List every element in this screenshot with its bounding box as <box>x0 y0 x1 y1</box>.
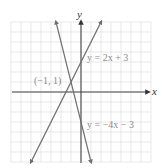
line1-label: y = 2x + 3 <box>87 52 128 63</box>
intersection-label: (−1, 1) <box>34 75 61 87</box>
x-axis-label: x <box>151 85 157 97</box>
y-axis-label: y <box>76 8 82 20</box>
coordinate-graph: x y y = 2x + 3 y = −4x − 3 (−1, 1) <box>0 0 162 168</box>
line2-label: y = −4x − 3 <box>87 119 134 130</box>
